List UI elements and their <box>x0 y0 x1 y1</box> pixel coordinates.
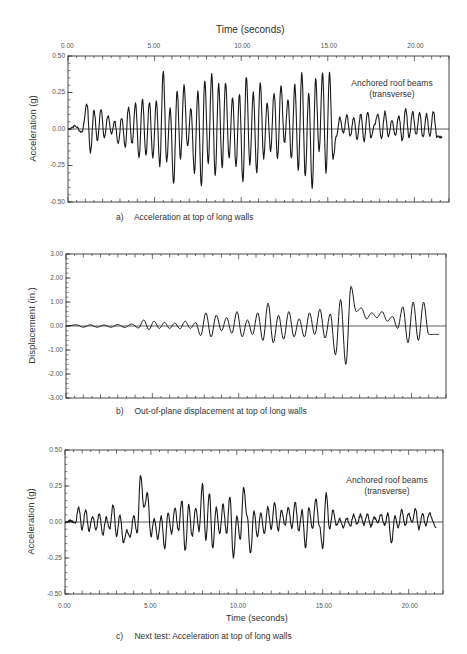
chart-a-ytick-label: -0.50 <box>50 198 65 205</box>
chart-c-ytick-label: 0.25 <box>49 482 62 489</box>
chart-b-ytick-label: -3.00 <box>48 394 63 401</box>
chart-a-ytick-label: 0.00 <box>52 125 65 132</box>
plots-canvas <box>0 0 467 654</box>
chart-a-ytick-label: 0.25 <box>52 88 65 95</box>
chart-b-ytick-label: -1.00 <box>48 346 63 353</box>
chart-b-series-line <box>66 286 439 364</box>
chart-c-ytick-label: -0.25 <box>47 554 62 561</box>
chart-a-xtick-label: 20.00 <box>407 42 423 49</box>
chart-a-xtick-label: 15.00 <box>321 42 337 49</box>
chart-a-xtick-label: 10.00 <box>234 42 250 49</box>
chart-b-ytick-label: 2.00 <box>50 274 63 281</box>
chart-a-ytick-label: 0.50 <box>52 52 65 59</box>
chart-b-ytick-label: 3.00 <box>50 250 63 257</box>
chart-c-ytick-label: -0.50 <box>47 590 62 597</box>
chart-c-xtick-label: 20.00 <box>402 602 418 609</box>
chart-c-xtick-label: 15.00 <box>316 602 332 609</box>
chart-c-xtick-label: 0.00 <box>58 602 71 609</box>
chart-a-series-line <box>68 71 442 188</box>
chart-b-ytick-label: 1.00 <box>50 298 63 305</box>
chart-c-xtick-label: 10.00 <box>230 602 246 609</box>
chart-c-series-line <box>65 476 436 559</box>
chart-c-ytick-label: 0.50 <box>49 446 62 453</box>
chart-c-ytick-label: 0.00 <box>49 518 62 525</box>
chart-a-xtick-label: 0.00 <box>61 42 74 49</box>
chart-b-ytick-label: -2.00 <box>48 370 63 377</box>
chart-a-ytick-label: -0.25 <box>50 161 65 168</box>
chart-b-ytick-label: 0.00 <box>50 322 63 329</box>
chart-c-xtick-label: 5.00 <box>144 602 157 609</box>
chart-a-xtick-label: 5.00 <box>148 42 161 49</box>
